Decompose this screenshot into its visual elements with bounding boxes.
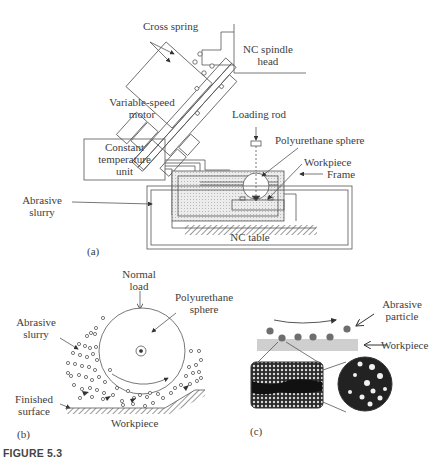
label-polyurethane-sphere: Polyurethane sphere [275, 134, 365, 146]
label-polyurethane-b-line1: Polyurethane [170, 291, 238, 303]
label-constant-temperature-unit: Constant temperature unit [84, 141, 165, 177]
panel-c-tag: (c) [250, 425, 262, 437]
panel-b-tag: (b) [17, 428, 30, 440]
label-polyurethane-sphere-b: Polyurethane sphere [170, 291, 238, 315]
panel-c-drawing [251, 314, 392, 412]
label-abrasive-particle-line1: Abrasive [377, 298, 427, 310]
label-abrasive-slurry-a-line1: Abrasive [14, 194, 70, 206]
label-abrasive-particle-line2: particle [377, 310, 427, 322]
label-variable-speed-motor: Variable-speed motor [104, 96, 180, 120]
label-polyurethane-b-line2: sphere [170, 303, 238, 315]
label-nc-spindle-head-line1: NC spindle [238, 43, 298, 55]
label-abrasive-slurry-b-line2: slurry [8, 328, 64, 340]
label-abrasive-particle: Abrasive particle [377, 298, 427, 322]
label-constant-temp-line2: temperature [84, 153, 165, 165]
label-normal-load-line2: load [116, 280, 162, 292]
label-normal-load: Normal load [116, 268, 162, 292]
label-workpiece-a: Workpiece [304, 156, 351, 168]
label-cross-spring: Cross spring [143, 20, 198, 32]
label-abrasive-slurry-a-line2: slurry [14, 206, 70, 218]
label-normal-load-line1: Normal [116, 268, 162, 280]
panel-a-tag: (a) [87, 245, 99, 257]
label-abrasive-slurry-b: Abrasive slurry [8, 316, 64, 340]
label-constant-temp-line3: unit [84, 165, 165, 177]
label-workpiece-c: Workpiece [381, 339, 428, 351]
label-finished-surface-line1: Finished [6, 393, 62, 405]
label-nc-table: NC table [215, 231, 285, 243]
figure-caption: FIGURE 5.3 [3, 447, 62, 459]
cross-spring-circles [193, 52, 214, 75]
label-finished-surface: Finished surface [6, 393, 62, 417]
label-frame: Frame [327, 168, 355, 180]
label-abrasive-slurry-b-line1: Abrasive [8, 316, 64, 328]
label-nc-spindle-head-line2: head [238, 55, 298, 67]
label-loading-rod: Loading rod [232, 108, 286, 120]
label-nc-spindle-head: NC spindle head [238, 43, 298, 67]
label-abrasive-slurry-a: Abrasive slurry [14, 194, 70, 218]
label-constant-temp-line1: Constant [84, 141, 165, 153]
label-variable-speed-motor-line2: motor [104, 108, 180, 120]
label-finished-surface-line2: surface [6, 405, 62, 417]
label-variable-speed-motor-line1: Variable-speed [104, 96, 180, 108]
label-workpiece-b: Workpiece [111, 417, 158, 429]
